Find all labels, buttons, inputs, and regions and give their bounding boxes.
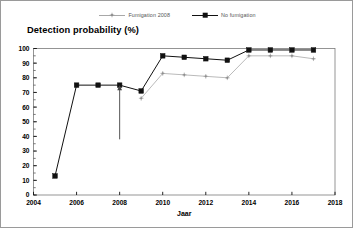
chart-svg: 0102030405060708090100200420062008201020… (1, 1, 353, 228)
data-point (269, 55, 271, 57)
data-point (139, 89, 144, 94)
data-point (248, 55, 250, 57)
y-tick-label: 80 (22, 74, 30, 81)
y-tick-label: 100 (18, 45, 29, 52)
x-tick-label: 2006 (69, 199, 84, 206)
data-point (311, 48, 316, 53)
data-point (160, 54, 165, 59)
data-point (74, 83, 79, 88)
x-tick-label: 2008 (112, 199, 127, 206)
data-point (312, 58, 314, 60)
y-tick-label: 20 (22, 162, 30, 169)
x-tick-label: 2010 (155, 199, 170, 206)
chart-plot-area: 0102030405060708090100200420062008201020… (1, 1, 353, 228)
data-point (183, 74, 185, 76)
data-point (162, 72, 164, 74)
data-point (268, 48, 273, 53)
annotation-arrow (117, 85, 122, 139)
data-point (140, 97, 142, 99)
plot-frame (34, 49, 336, 196)
series-no-fumigation (53, 48, 316, 179)
x-tick-label: 2004 (26, 199, 41, 206)
y-tick-label: 50 (22, 118, 30, 125)
y-tick-label: 40 (22, 133, 30, 140)
data-point (53, 174, 58, 179)
y-tick-label: 30 (22, 147, 30, 154)
data-point (247, 48, 252, 53)
chart-figure: Fumigation 2008 No fumigation Detection … (0, 0, 353, 228)
y-tick-label: 70 (22, 89, 30, 96)
data-point (96, 83, 101, 88)
data-point (203, 56, 208, 61)
y-tick-label: 10 (22, 177, 30, 184)
x-tick-label: 2012 (198, 199, 213, 206)
x-tick-label: 2016 (285, 199, 300, 206)
data-point (290, 48, 295, 53)
data-point (205, 75, 207, 77)
data-point (291, 55, 293, 57)
x-axis-title: Jaar (177, 210, 192, 217)
y-tick-label: 60 (22, 104, 30, 111)
x-tick-label: 2014 (242, 199, 257, 206)
y-tick-label: 90 (22, 60, 30, 67)
data-point (226, 77, 228, 79)
data-point (225, 58, 230, 63)
data-point (182, 55, 187, 60)
y-tick-label: 0 (26, 191, 30, 198)
series-line (55, 50, 313, 176)
x-tick-label: 2018 (328, 199, 343, 206)
